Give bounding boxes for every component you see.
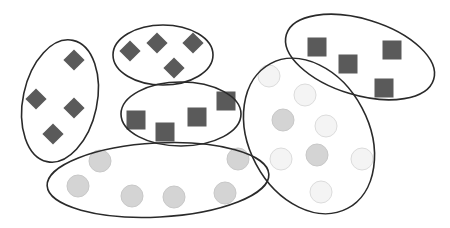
diamond-item: [146, 32, 167, 53]
cluster-diagram: [0, 0, 450, 228]
square-item: [188, 108, 207, 127]
circle-item: [294, 84, 316, 106]
square-item: [217, 92, 236, 111]
square-item: [383, 41, 402, 60]
cluster-bottom-circles: [45, 137, 271, 223]
cluster-left-diamonds: [11, 33, 109, 170]
circle-item: [258, 65, 280, 87]
circle-item: [163, 186, 185, 208]
cluster-outline: [11, 33, 109, 170]
circle-item: [351, 148, 373, 170]
diagram-svg: [0, 0, 450, 228]
diamond-item: [163, 57, 184, 78]
cluster-middle-squares: [121, 82, 241, 146]
square-item: [127, 111, 146, 130]
circle-item: [315, 115, 337, 137]
square-item: [156, 123, 175, 142]
circle-item: [270, 148, 292, 170]
diamond-item: [25, 88, 46, 109]
square-item: [308, 38, 327, 57]
circle-item: [121, 185, 143, 207]
cluster-top-diamonds: [113, 25, 213, 85]
square-item: [375, 79, 394, 98]
circle-item: [214, 182, 236, 204]
diamond-item: [42, 123, 63, 144]
square-item: [339, 55, 358, 74]
circle-item: [306, 144, 328, 166]
circle-item: [310, 181, 332, 203]
diamond-item: [63, 97, 84, 118]
diamond-item: [119, 40, 140, 61]
circle-item: [67, 175, 89, 197]
diamond-item: [63, 49, 84, 70]
circle-item: [272, 109, 294, 131]
